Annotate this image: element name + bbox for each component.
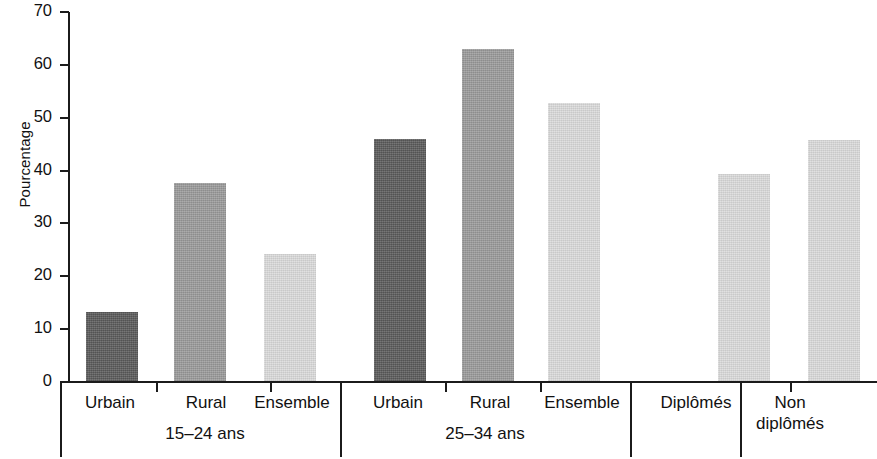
x-axis-group-separator [340,383,342,457]
bar-chart: Pourcentage 010203040506070 UrbainRuralE… [0,0,877,459]
x-axis-category-label: Ensemble [244,393,340,413]
x-axis-group-label: 25–34 ans [420,424,550,444]
x-axis-category-label: Urbain [62,393,158,413]
x-axis-line [60,381,877,383]
x-axis-tick [156,383,158,392]
x-axis-tick [270,383,272,392]
x-axis-group-label: 15–24 ans [140,424,270,444]
bar [264,254,316,382]
x-axis-tick [540,383,542,392]
y-axis-tick-label: 40 [0,160,52,179]
bar [808,140,860,382]
bar [174,183,226,382]
plot-area [68,12,874,382]
y-axis-tick-label: 60 [0,54,52,73]
x-axis-category-label: Diplômés [648,393,744,413]
y-axis-tick-label: 30 [0,212,52,231]
y-axis-tick-label: 0 [0,371,52,390]
x-axis-category-label: Rural [442,393,538,413]
bar [718,174,770,382]
y-axis-tick-label: 50 [0,107,52,126]
y-axis-tick-label: 20 [0,265,52,284]
bar [548,103,600,382]
x-axis-category-label: Non [742,393,838,413]
x-axis-category-label: Urbain [350,393,446,413]
x-axis-category-label: diplômés [742,414,838,434]
x-axis-group-separator [630,383,632,457]
y-axis-tick-label: 10 [0,318,52,337]
x-axis-category-label: Rural [158,393,254,413]
y-axis-tick-label: 70 [0,1,52,20]
x-axis-tick [790,383,792,392]
bar [374,139,426,382]
bar [462,49,514,382]
x-axis-tick [445,383,447,392]
bar [86,312,138,382]
x-axis-category-label: Ensemble [534,393,630,413]
